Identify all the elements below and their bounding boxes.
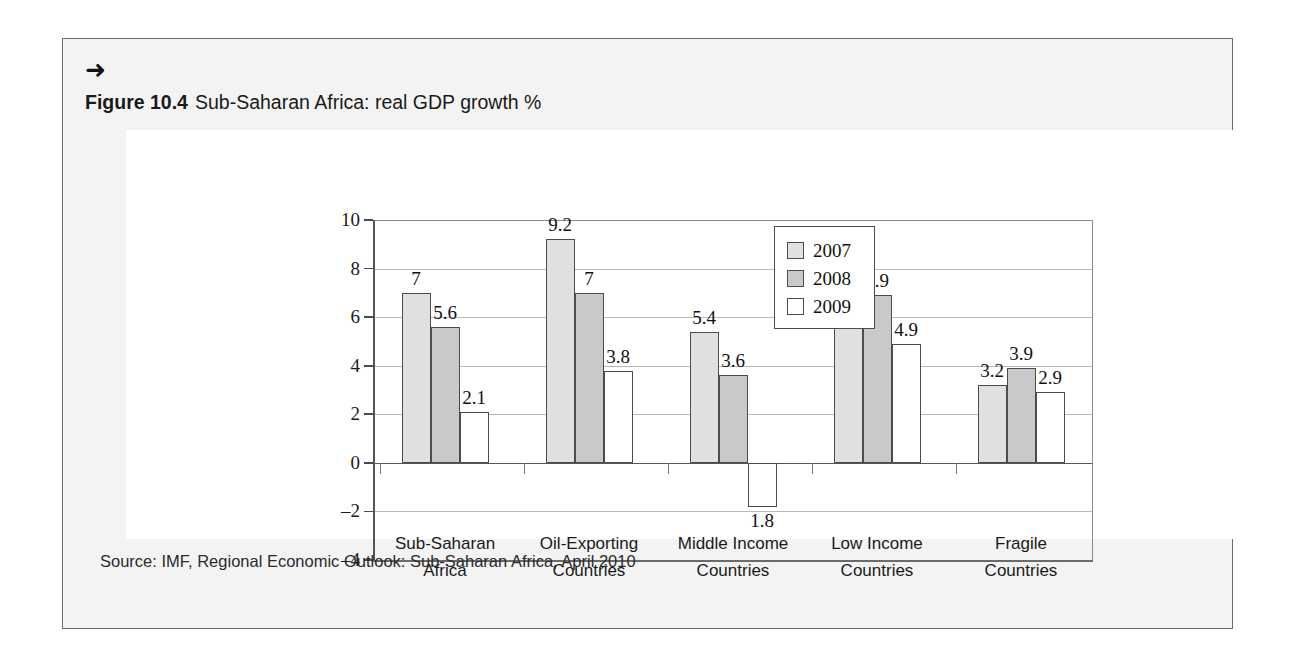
category-label-line1: Oil-Exporting	[540, 535, 638, 553]
category-label-line2: Countries	[678, 562, 789, 580]
figure-caption: Figure 10.4Sub-Saharan Africa: real GDP …	[85, 91, 541, 114]
bar-2008-3	[719, 375, 748, 462]
bar-value-2009-2: 3.8	[606, 346, 630, 368]
legend-swatch-2007	[787, 242, 804, 259]
bar-2009-2	[604, 371, 633, 463]
gridline-8	[373, 269, 1093, 270]
y-tick-label--2: –2	[341, 500, 360, 522]
y-tick-mark-2	[364, 413, 373, 415]
y-tick-label-6: 6	[351, 306, 361, 328]
right-axis-line	[1092, 220, 1093, 560]
category-tick	[956, 463, 957, 474]
bar-2007-3	[690, 332, 719, 463]
bar-value-2008-2: 7	[584, 268, 594, 290]
y-tick-mark-4	[364, 365, 373, 367]
bar-2008-5	[1007, 368, 1036, 463]
y-tick-mark-10	[364, 219, 373, 221]
figure-number: Figure 10.4	[85, 91, 188, 113]
figure-frame: ➜ Figure 10.4Sub-Saharan Africa: real GD…	[62, 38, 1233, 629]
bar-2009-5	[1036, 392, 1065, 462]
y-tick-mark--2	[364, 511, 373, 513]
bar-value-2007-2: 9.2	[548, 214, 572, 236]
bar-2009-4	[892, 344, 921, 463]
y-tick-label-4: 4	[351, 355, 361, 377]
figure-screenshot: ➜ Figure 10.4Sub-Saharan Africa: real GD…	[0, 0, 1290, 663]
bar-value-2009-4: 4.9	[894, 319, 918, 341]
bar-value-2009-5: 2.9	[1038, 367, 1062, 389]
y-tick-label-10: 10	[341, 209, 360, 231]
category-label-line1: Fragile	[985, 535, 1058, 553]
bar-value-2008-3: 3.6	[721, 350, 745, 372]
legend-swatch-2009	[787, 298, 804, 315]
y-axis-line	[373, 220, 375, 560]
chart-legend: 200720082009	[774, 226, 875, 329]
y-tick-label-8: 8	[351, 258, 361, 280]
legend-row-2009: 2009	[787, 292, 874, 320]
y-tick-mark-0	[364, 462, 373, 464]
bar-value-2008-1: 5.6	[433, 302, 457, 324]
plot-inner: 75.62.19.273.85.43.61.876.94.93.23.92.9	[373, 220, 1093, 560]
gridline-10	[373, 220, 1093, 221]
chart-card: 75.62.19.273.85.43.61.876.94.93.23.92.9 …	[126, 130, 1233, 539]
legend-label-2007: 2007	[813, 241, 851, 260]
arrow-marker-icon: ➜	[85, 57, 106, 82]
legend-label-2008: 2008	[813, 269, 851, 288]
y-tick-label-2: 2	[351, 403, 361, 425]
bar-value-2007-1: 7	[411, 268, 421, 290]
source-note: Source: IMF, Regional Economic Outlook: …	[100, 552, 636, 571]
bar-value-2008-5: 3.9	[1009, 343, 1033, 365]
bar-value-2007-3: 5.4	[692, 307, 716, 329]
category-label-line1: Middle Income	[678, 535, 789, 553]
category-tick	[380, 463, 381, 474]
category-label-line2: Countries	[831, 562, 923, 580]
bar-2007-1	[402, 293, 431, 463]
category-tick	[524, 463, 525, 474]
category-label-line2: Countries	[985, 562, 1058, 580]
legend-row-2007: 2007	[787, 236, 874, 264]
bar-2007-2	[546, 239, 575, 462]
category-label-5: FragileCountries	[985, 535, 1058, 580]
bar-value-2009-3: 1.8	[750, 510, 774, 532]
bar-2007-5	[978, 385, 1007, 463]
category-label-4: Low IncomeCountries	[831, 535, 923, 580]
bar-2009-3	[748, 463, 777, 507]
category-label-line1: Low Income	[831, 535, 923, 553]
bar-2008-2	[575, 293, 604, 463]
gridline-0	[373, 463, 1093, 465]
y-tick-mark-6	[364, 316, 373, 318]
plot-area: 75.62.19.273.85.43.61.876.94.93.23.92.9 …	[373, 220, 1093, 560]
legend-swatch-2008	[787, 270, 804, 287]
bar-2008-1	[431, 327, 460, 463]
bar-2009-1	[460, 412, 489, 463]
bar-value-2009-1: 2.1	[462, 387, 486, 409]
gridline--2	[373, 511, 1093, 512]
category-tick	[668, 463, 669, 474]
legend-label-2009: 2009	[813, 297, 851, 316]
legend-row-2008: 2008	[787, 264, 874, 292]
category-tick	[812, 463, 813, 474]
figure-title: Sub-Saharan Africa: real GDP growth %	[195, 91, 541, 113]
y-tick-mark-8	[364, 268, 373, 270]
category-label-3: Middle IncomeCountries	[678, 535, 789, 580]
category-label-line1: Sub-Saharan	[395, 535, 495, 553]
bar-value-2007-5: 3.2	[980, 360, 1004, 382]
y-tick-label-0: 0	[351, 452, 361, 474]
gridline-6	[373, 317, 1093, 318]
